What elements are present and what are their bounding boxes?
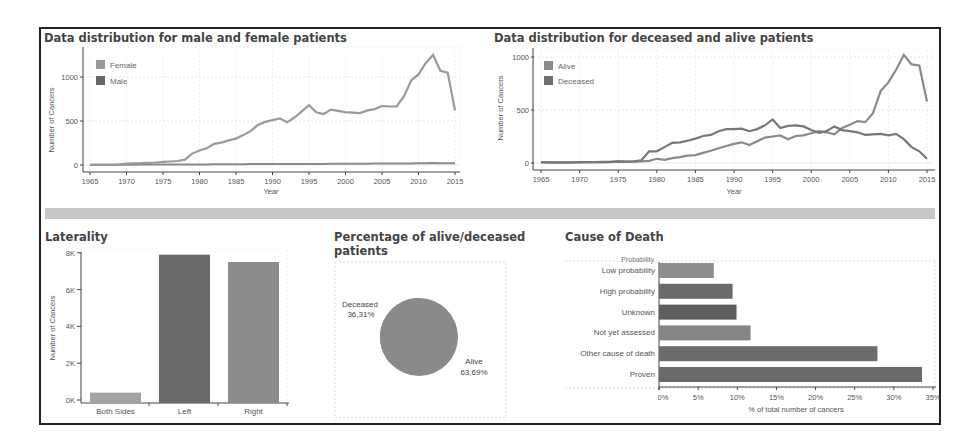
legend-label-female[interactable]: Female: [110, 61, 137, 70]
x-tick-label: Left: [178, 407, 192, 416]
cause-category-label: High probability: [600, 287, 655, 296]
cause-y-axis-label: Probability: [621, 256, 654, 264]
x-tick-label: 1970: [118, 177, 135, 186]
y-tick-label: 1000: [512, 53, 529, 62]
x-tick-label: 1985: [228, 177, 245, 186]
vital-y-ticks: 05001000: [512, 53, 534, 168]
legend-label-deceased[interactable]: Deceased: [558, 77, 594, 86]
x-tick-label: 0%: [658, 393, 669, 402]
cause-bar-not-yet-assessed[interactable]: [659, 325, 751, 340]
alive-deceased-pie-chart: Deceased 36,31% Alive 63,69%: [335, 262, 506, 418]
x-tick-label: 1975: [610, 175, 627, 184]
y-tick-label: 500: [65, 117, 78, 126]
cause-bar-low-probability[interactable]: [659, 263, 714, 278]
y-tick-label: 500: [516, 106, 529, 115]
vital-legend: Alive Deceased: [544, 61, 594, 86]
cause-category-label: Proven: [630, 370, 655, 379]
x-tick-label: 1990: [264, 177, 281, 186]
y-tick-label: 2K: [66, 359, 75, 368]
gender-plot-area: [83, 47, 460, 165]
cause-bar-high-probability[interactable]: [659, 284, 733, 299]
x-tick-label: 1990: [726, 175, 743, 184]
vital-plot-area: [533, 48, 932, 163]
cause-bar-other-cause-of-death[interactable]: [659, 346, 877, 361]
laterality-bar-chart: 0K2K4K6K8K Both SidesLeftRight Number of…: [48, 248, 289, 416]
vital-x-ticks: 1965197019751980198519901995200020052010…: [533, 170, 936, 184]
x-tick-label: 5%: [693, 393, 704, 402]
laterality-bar-left[interactable]: [159, 255, 210, 403]
x-tick-label: 1980: [191, 177, 208, 186]
y-tick-label: 8K: [66, 249, 75, 258]
gender-line-chart: 05001000 1965197019751980198519901995200…: [47, 47, 463, 196]
x-tick-label: 1995: [764, 175, 781, 184]
legend-label-alive[interactable]: Alive: [558, 62, 576, 71]
x-tick-label: 2010: [410, 177, 427, 186]
vital-x-axis-label: Year: [726, 187, 742, 196]
x-tick-label: 2000: [803, 175, 820, 184]
x-tick-label: 35%: [925, 393, 940, 402]
legend-swatch-male[interactable]: [96, 76, 105, 85]
vital-y-axis-label: Number of Cancers: [496, 75, 505, 140]
legend-label-male[interactable]: Male: [110, 77, 128, 86]
y-tick-label: 6K: [66, 286, 75, 295]
cause-bar-proven[interactable]: [659, 367, 922, 382]
y-tick-label: 0K: [66, 396, 75, 405]
cause-bars: Low probabilityHigh probabilityUnknownNo…: [580, 263, 922, 382]
gender-y-axis-label: Number of Cancers: [47, 87, 56, 152]
pie-pct-alive: 63,69%: [460, 368, 487, 377]
cause-of-death-bar-chart: Probability Low probabilityHigh probabil…: [565, 256, 941, 414]
pie-label-deceased: Deceased: [342, 300, 378, 309]
gender-x-ticks: 1965197019751980198519901995200020052010…: [82, 172, 464, 186]
cause-category-label: Unknown: [622, 308, 655, 317]
x-tick-label: 2010: [880, 175, 897, 184]
gender-legend: Female Male: [96, 60, 137, 86]
charts-canvas: 05001000 1965197019751980198519901995200…: [0, 0, 980, 446]
x-tick-label: 2015: [447, 177, 464, 186]
laterality-bar-both-sides[interactable]: [90, 393, 141, 403]
laterality-y-axis-label: Number of Cancers: [48, 295, 57, 360]
vital-line-chart: 05001000 1965197019751980198519901995200…: [496, 48, 935, 196]
y-tick-label: 4K: [66, 322, 75, 331]
x-tick-label: 10%: [730, 393, 745, 402]
x-tick-label: 2005: [374, 177, 391, 186]
x-tick-label: 1970: [571, 175, 588, 184]
legend-swatch-alive[interactable]: [544, 61, 553, 70]
cause-x-ticks: 0%5%10%15%20%25%30%35%: [658, 387, 941, 402]
cause-category-label: Other cause of death: [580, 349, 655, 358]
cause-bar-unknown[interactable]: [659, 305, 737, 320]
legend-swatch-deceased[interactable]: [544, 76, 553, 85]
x-tick-label: 30%: [886, 393, 901, 402]
x-tick-label: 15%: [769, 393, 784, 402]
x-tick-label: 1985: [687, 175, 704, 184]
gender-y-ticks: 05001000: [61, 73, 83, 170]
gender-gridlines: [83, 52, 460, 172]
x-tick-label: Right: [244, 407, 263, 416]
x-tick-label: 1965: [82, 177, 99, 186]
legend-swatch-female[interactable]: [96, 60, 105, 69]
x-tick-label: 2000: [337, 177, 354, 186]
y-tick-label: 0: [525, 159, 529, 168]
x-tick-label: 1980: [648, 175, 665, 184]
cause-category-label: Not yet assessed: [594, 328, 655, 337]
y-tick-label: 1000: [61, 73, 78, 82]
x-tick-label: Both Sides: [96, 407, 135, 416]
laterality-y-ticks: 0K2K4K6K8K: [66, 249, 81, 405]
x-tick-label: 25%: [847, 393, 862, 402]
cause-category-label: Low probability: [602, 266, 655, 275]
x-tick-label: 1975: [155, 177, 172, 186]
x-tick-label: 1965: [533, 175, 550, 184]
x-tick-label: 2015: [919, 175, 936, 184]
pie-label-alive: Alive: [465, 357, 483, 366]
y-tick-label: 0: [74, 161, 78, 170]
laterality-bar-right[interactable]: [228, 262, 279, 403]
vital-gridlines: [534, 50, 932, 170]
gender-x-axis-label: Year: [263, 187, 279, 196]
x-tick-label: 20%: [808, 393, 823, 402]
x-tick-label: 2005: [841, 175, 858, 184]
x-tick-label: 1995: [301, 177, 318, 186]
cause-x-axis-label: % of total number of cancers: [748, 405, 844, 414]
laterality-bars: Both SidesLeftRight: [90, 255, 287, 416]
pie-pct-deceased: 36,31%: [347, 310, 374, 319]
